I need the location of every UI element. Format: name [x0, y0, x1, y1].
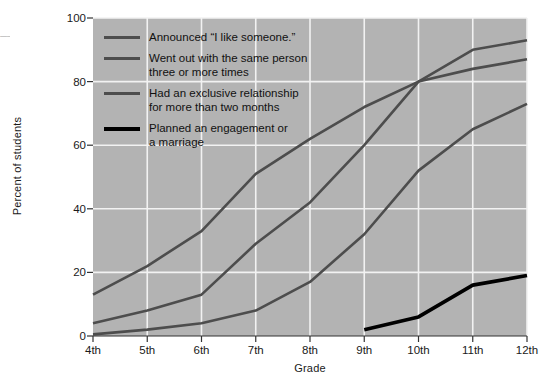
- x-tick-label: 10th: [397, 344, 441, 356]
- y-tick-label: 80: [46, 76, 86, 88]
- x-tick-label: 5th: [125, 344, 169, 356]
- legend-swatch: [104, 127, 140, 131]
- y-tick-label: 40: [46, 203, 86, 215]
- legend-entry: Had an exclusive relationship for more t…: [104, 86, 354, 114]
- y-tick-label: 20: [46, 266, 86, 278]
- y-axis-ticks: 020406080100: [38, 0, 86, 388]
- chart-legend: Announced “I like someone.”Went out with…: [104, 30, 354, 156]
- x-tick-label: 6th: [180, 344, 224, 356]
- x-axis-label: Grade: [93, 362, 527, 374]
- legend-label: Went out with the same person three or m…: [149, 51, 307, 79]
- y-tick-label: 0: [46, 330, 86, 342]
- legend-label: Planned an engagement or a marriage: [149, 121, 288, 149]
- legend-swatch: [104, 57, 140, 60]
- legend-label: Announced “I like someone.”: [149, 30, 295, 44]
- y-axis-label: Percent of students: [11, 86, 23, 246]
- y-tick-label: 100: [46, 12, 86, 24]
- legend-entry: Went out with the same person three or m…: [104, 51, 354, 79]
- legend-entry: Planned an engagement or a marriage: [104, 121, 354, 149]
- legend-swatch: [104, 36, 140, 39]
- y-tick-label: 60: [46, 139, 86, 151]
- x-tick-label: 7th: [234, 344, 278, 356]
- x-tick-label: 11th: [451, 344, 495, 356]
- legend-swatch: [104, 92, 140, 95]
- legend-label: Had an exclusive relationship for more t…: [149, 86, 299, 114]
- x-tick-label: 12th: [505, 344, 543, 356]
- x-tick-label: 4th: [71, 344, 115, 356]
- x-tick-label: 9th: [342, 344, 386, 356]
- x-tick-label: 8th: [288, 344, 332, 356]
- legend-entry: Announced “I like someone.”: [104, 30, 354, 44]
